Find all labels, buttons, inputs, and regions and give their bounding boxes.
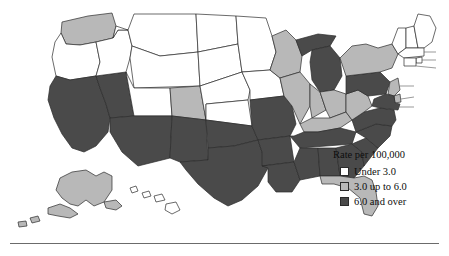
legend-item-6-and-over[interactable]: 6.0 and over	[340, 194, 441, 209]
legend-swatch-3-to-6	[340, 182, 349, 191]
state-HI-oahu[interactable]	[142, 191, 151, 198]
state-AK-island-a[interactable]	[30, 216, 40, 223]
choropleth-figure: Rate per 100,000 Under 3.0 3.0 up to 6.0…	[0, 0, 449, 256]
state-AK-panhandle[interactable]	[104, 200, 122, 210]
state-HI-maui[interactable]	[154, 194, 165, 202]
legend-item-under-3[interactable]: Under 3.0	[340, 164, 441, 179]
state-HI-bigisland[interactable]	[165, 202, 180, 214]
state-LA[interactable]	[262, 162, 300, 192]
state-MI2[interactable]	[310, 46, 342, 92]
legend-item-3-to-6[interactable]: 3.0 up to 6.0	[340, 179, 441, 194]
state-RI[interactable]	[416, 57, 422, 63]
legend-label-under-3: Under 3.0	[354, 165, 396, 178]
state-AK-island-b[interactable]	[18, 221, 27, 227]
us-map: Rate per 100,000 Under 3.0 3.0 up to 6.0…	[0, 0, 449, 232]
state-NJ[interactable]	[388, 78, 400, 96]
legend-swatch-6-and-over	[340, 197, 349, 206]
state-ME[interactable]	[414, 14, 436, 48]
state-NM[interactable]	[170, 116, 208, 162]
state-AK-aleutians[interactable]	[48, 204, 78, 218]
bottom-rule	[10, 243, 439, 244]
state-MN[interactable]	[236, 16, 276, 72]
state-AZ[interactable]	[110, 116, 172, 166]
state-NY[interactable]	[340, 44, 398, 76]
state-AR[interactable]	[258, 136, 294, 166]
state-CT[interactable]	[404, 58, 416, 66]
state-TN[interactable]	[290, 128, 356, 148]
state-AK[interactable]	[56, 170, 112, 206]
legend-swatch-under-3	[340, 167, 349, 176]
legend: Rate per 100,000 Under 3.0 3.0 up to 6.0…	[333, 148, 441, 209]
legend-label-3-to-6: 3.0 up to 6.0	[354, 180, 407, 193]
state-HI-kauai[interactable]	[130, 186, 138, 193]
leader-line-de	[401, 97, 414, 99]
legend-title: Rate per 100,000	[333, 148, 441, 161]
leader-line-ct	[416, 66, 436, 68]
legend-label-6-and-over: 6.0 and over	[354, 195, 406, 208]
